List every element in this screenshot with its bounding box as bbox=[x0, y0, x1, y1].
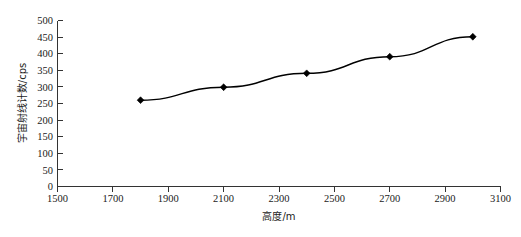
x-tick-label: 2100 bbox=[213, 193, 234, 204]
x-axis-tick-labels: 1500 1700 1900 2100 2300 2500 2700 2900 … bbox=[47, 193, 511, 204]
y-tick-label: 0 bbox=[48, 181, 53, 192]
y-tick-label: 250 bbox=[37, 98, 53, 109]
x-tick-label: 1500 bbox=[47, 193, 68, 204]
x-axis-ticks bbox=[58, 187, 501, 192]
y-axis-title: 宇宙射线计数/cps bbox=[16, 63, 28, 143]
y-tick-label: 450 bbox=[37, 32, 53, 43]
y-tick-label: 350 bbox=[37, 65, 53, 76]
data-point-marker: 3000, 451 bbox=[469, 33, 476, 40]
data-point-marker: 1800, 260 bbox=[137, 97, 144, 104]
chart-plot-area: 0 50 100 150 200 250 300 350 400 450 500 bbox=[0, 0, 521, 237]
y-tick-label: 100 bbox=[37, 148, 53, 159]
y-axis-tick-labels: 0 50 100 150 200 250 300 350 400 450 500 bbox=[37, 15, 53, 192]
x-tick-label: 2300 bbox=[269, 193, 290, 204]
x-tick-label: 2900 bbox=[435, 193, 456, 204]
data-point-marker: 2100, 299 bbox=[220, 84, 227, 91]
y-tick-label: 500 bbox=[37, 15, 53, 26]
x-tick-label: 1900 bbox=[158, 193, 179, 204]
x-axis-title: 高度/m bbox=[262, 210, 295, 222]
y-axis-ticks bbox=[58, 21, 63, 187]
data-point-marker: 2400, 341 bbox=[303, 70, 310, 77]
cosmic-ray-count-vs-altitude-chart: 0 50 100 150 200 250 300 350 400 450 500 bbox=[0, 0, 521, 237]
x-tick-label: 3100 bbox=[490, 193, 511, 204]
series-line bbox=[141, 37, 473, 100]
data-series-cosmic-ray-count: 1800, 2602100, 2992400, 3412700, 3913000… bbox=[137, 33, 476, 103]
figure-caption-fragment bbox=[0, 232, 521, 237]
y-tick-label: 150 bbox=[37, 131, 53, 142]
x-tick-label: 2700 bbox=[379, 193, 400, 204]
y-tick-label: 400 bbox=[37, 48, 53, 59]
y-tick-label: 50 bbox=[43, 165, 54, 176]
data-point-marker: 2700, 391 bbox=[386, 53, 393, 60]
y-tick-label: 300 bbox=[37, 82, 53, 93]
x-tick-label: 1700 bbox=[102, 193, 123, 204]
y-tick-label: 200 bbox=[37, 115, 53, 126]
x-tick-label: 2500 bbox=[324, 193, 345, 204]
